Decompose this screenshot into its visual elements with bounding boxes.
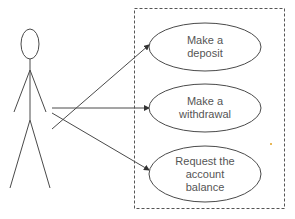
label-line: account	[155, 168, 255, 181]
use-case-withdrawal-label: Make a withdrawal	[155, 95, 255, 121]
actor-arm-right	[30, 70, 46, 112]
label-line: deposit	[155, 47, 255, 60]
stray-mark	[270, 143, 272, 145]
actor-stick-figure	[10, 29, 50, 188]
actor-arm-left	[14, 70, 30, 112]
label-line: Make a	[155, 95, 255, 108]
actor-head	[21, 29, 39, 59]
label-line: balance	[155, 181, 255, 194]
actor-leg-right	[30, 120, 50, 188]
label-line: Make a	[155, 34, 255, 47]
actor-leg-left	[10, 120, 30, 188]
use-case-diagram: Make a deposit Make a withdrawal Request…	[0, 0, 295, 219]
label-line: withdrawal	[155, 108, 255, 121]
label-line: Request the	[155, 155, 255, 168]
use-case-deposit-label: Make a deposit	[155, 34, 255, 60]
use-case-balance-label: Request the account balance	[155, 155, 255, 194]
